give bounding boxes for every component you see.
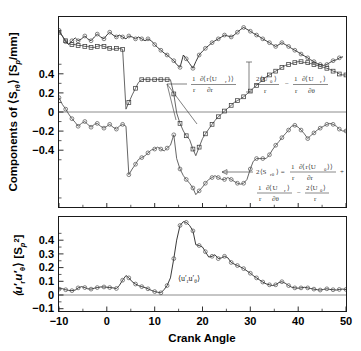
bottom-inline-label: ⟨u′ru′θ⟩: [178, 274, 200, 284]
annot-sum-l2a-close: ⟩: [287, 184, 290, 192]
bottom-ytick-label-3: 0.1: [39, 275, 54, 287]
xtick-label-3: 20: [196, 315, 208, 327]
annot-sum-l2a-num-right: ∂⟨U: [266, 184, 278, 192]
annot-sum-l1-num-left: 1: [291, 163, 295, 171]
figure-container: 0.4 0.2 0 −0.2 −0.4: [0, 0, 361, 351]
inline-close: ⟩: [197, 274, 200, 283]
xtick-label-1: 0: [104, 315, 110, 327]
x-axis-label: Crank Angle: [168, 332, 235, 344]
top-ylabel-units-rest: /mm]: [7, 32, 19, 60]
annot-theta-term2-den-right: ∂θ: [308, 87, 315, 95]
annot-dr-num-right: ∂⟨r⟨U: [200, 75, 217, 83]
annot-sum-l2b-num: 2⟨U: [306, 184, 318, 192]
annot-sum-lhs-sub: rθ: [270, 172, 275, 177]
top-ylabel-symbol-sub: rθ: [13, 84, 22, 91]
xtick-label-0: −10: [50, 315, 69, 327]
inline-open: ⟨u′: [178, 274, 187, 283]
annot-sum-l2a-num-left: 1: [258, 184, 262, 192]
annot-theta-term2-num-right: ∂⟨U: [302, 75, 314, 83]
annot-dr-den-right: ∂r: [207, 86, 213, 94]
annot-sum-l1-den-right: ∂r: [307, 174, 313, 182]
annot-sum-lhs-close: ⟩ =: [276, 168, 285, 176]
top-ytick-label-0: 0.4: [39, 68, 55, 80]
bottom-ylabel-close: ⟩ [S: [12, 247, 24, 267]
xtick-label-6: 50: [340, 315, 352, 327]
annot-sum-lhs: 2⟨S: [256, 168, 267, 176]
bottom-ytick-label-1: 0.3: [39, 248, 54, 260]
top-ytick-label-1: 0.2: [39, 87, 54, 99]
annot-sum-plus: +: [340, 168, 344, 176]
bottom-ylabel-end: ]: [12, 234, 24, 238]
annot-sum-l1-num-right: ∂⟨r⟨U: [299, 163, 316, 171]
annot-sum-l1-tail: ⟩⟩: [327, 163, 333, 171]
annot-dr-num-left: 1: [192, 75, 196, 83]
bottom-ytick-label-4: 0: [48, 289, 54, 301]
top-ylabel-symbol: ⟨S: [7, 91, 19, 104]
xtick-label-2: 10: [149, 315, 161, 327]
figure-svg: 0.4 0.2 0 −0.2 −0.4: [0, 0, 361, 351]
top-ylabel-units: [S: [7, 64, 19, 76]
bottom-ylabel-open: ⟨u′: [12, 282, 24, 297]
xtick-label-4: 30: [244, 315, 256, 327]
annot-theta-minus: −: [285, 80, 289, 88]
annot-theta-term1-close: ⟩: [274, 75, 277, 83]
top-ytick-label-3: −0.2: [32, 125, 54, 137]
annot-theta-term1-num: 2⟨U: [256, 75, 268, 83]
xtick-label-5: 40: [292, 315, 304, 327]
bottom-ytick-label-2: 0.2: [39, 261, 54, 273]
top-ytick-label-4: −0.4: [32, 144, 55, 156]
top-ytick-label-2: 0: [48, 106, 54, 118]
annot-theta-term2-num-left: 1: [294, 75, 298, 83]
top-ylabel-prefix: Components of: [7, 107, 19, 191]
annot-theta-term2-close: ⟩: [323, 75, 326, 83]
bottom-ytick-label-5: −0.1: [32, 302, 54, 314]
annot-sum-l2b-close: ⟩: [323, 184, 326, 192]
bottom-ytick-label-0: 0.4: [39, 234, 55, 246]
annot-sum-l2a-den-right: ∂θ: [272, 195, 279, 203]
annot-dr-num-tail: ⟩⟩: [228, 75, 234, 83]
annot-sum-l2-minus: −: [297, 189, 301, 197]
